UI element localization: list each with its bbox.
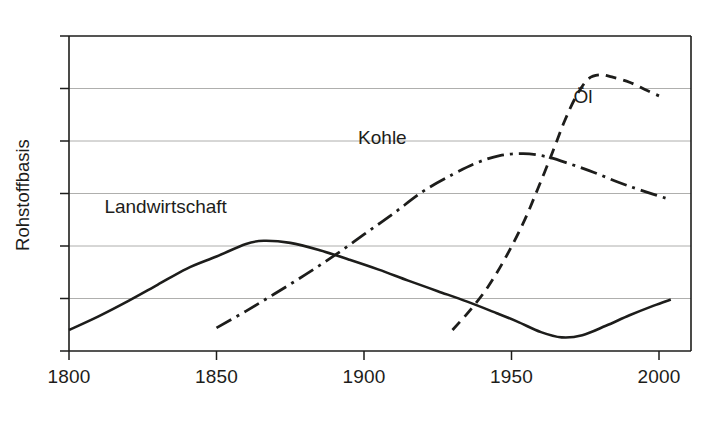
series-annotation-label: Öl xyxy=(573,86,592,107)
chart-container: 18001850190019502000 LandwirtschaftKohle… xyxy=(0,0,712,426)
rohstoffbasis-line-chart: 18001850190019502000 LandwirtschaftKohle… xyxy=(0,0,712,426)
series-line--l xyxy=(453,75,660,330)
x-axis-tick-label: 1900 xyxy=(342,366,385,387)
series-line-landwirtschaft xyxy=(69,241,671,338)
series-annotation-label: Landwirtschaft xyxy=(104,196,227,217)
x-axis-ticks-group xyxy=(69,351,659,360)
x-axis-tick-label: 1950 xyxy=(490,366,533,387)
x-axis-tick-labels: 18001850190019502000 xyxy=(47,366,680,387)
y-axis-ticks-group xyxy=(60,36,69,351)
x-axis-tick-label: 2000 xyxy=(637,366,680,387)
x-axis-tick-label: 1850 xyxy=(195,366,238,387)
gridlines-group xyxy=(69,89,691,299)
x-axis-tick-label: 1800 xyxy=(47,366,90,387)
series-annotations-group: LandwirtschaftKohleÖl xyxy=(104,86,592,217)
series-annotation-label: Kohle xyxy=(358,127,407,148)
y-axis-title: Rohstoffbasis xyxy=(12,139,33,251)
